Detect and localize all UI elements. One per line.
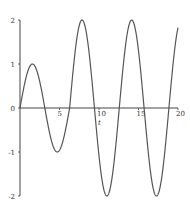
x-axis-label: t: [98, 119, 101, 127]
x-tick-label: 5: [58, 110, 62, 118]
x-tick-label: 20: [176, 110, 185, 118]
y-tick-label: -2: [8, 193, 15, 201]
y-tick-label: 2: [11, 17, 15, 25]
chart-plot: 5101520210-1-2 t: [0, 0, 190, 208]
y-tick-label: 0: [11, 105, 15, 113]
y-tick-label: 1: [11, 61, 15, 69]
x-tick-label: 10: [97, 110, 106, 118]
y-tick-label: -1: [8, 149, 15, 157]
